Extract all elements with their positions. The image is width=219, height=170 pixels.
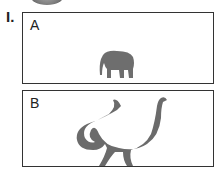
- elephant-icon: [97, 49, 137, 79]
- decorative-circle: [30, 0, 64, 5]
- option-a-label: A: [30, 17, 39, 33]
- option-a-box[interactable]: A: [22, 12, 214, 84]
- question-number: I.: [6, 8, 14, 25]
- option-b-box[interactable]: B: [22, 90, 214, 167]
- option-b-label: B: [30, 95, 39, 111]
- sauropod-dinosaur-icon: [59, 94, 179, 168]
